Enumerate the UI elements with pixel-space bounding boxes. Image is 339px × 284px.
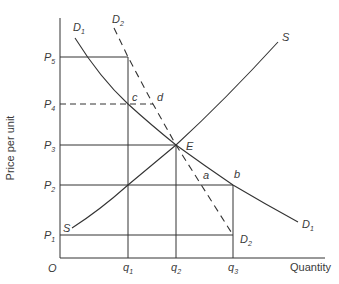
- curve-label-d2-bottom: D2: [240, 233, 252, 247]
- point-label-d: d: [157, 91, 164, 103]
- curve-label-d1-bottom: D1: [302, 218, 314, 232]
- price-label-p5: P5: [44, 51, 55, 65]
- point-label-b: b: [234, 168, 240, 180]
- point-label-c: c: [132, 91, 138, 103]
- curve-label-s-bottom: S: [63, 222, 71, 234]
- demand-curve-d2: [114, 28, 233, 235]
- supply-demand-diagram: Price per unit Quantity O P5 P4 P3 P2 P1…: [0, 0, 339, 284]
- quantity-label-q1: q1: [123, 261, 133, 275]
- price-label-p2: P2: [44, 179, 55, 193]
- curve-label-d2-top: D2: [112, 13, 124, 27]
- x-axis-label: Quantity: [290, 261, 331, 273]
- supply-curve-s: [72, 42, 278, 228]
- point-label-a: a: [203, 169, 209, 181]
- point-label-e: E: [186, 140, 194, 152]
- demand-curve-d1: [75, 38, 298, 222]
- curve-label-d1-top: D1: [73, 21, 85, 35]
- quantity-label-q3: q3: [228, 261, 238, 275]
- quantity-label-q2: q2: [171, 261, 181, 275]
- curve-label-s-top: S: [282, 31, 290, 43]
- price-label-p3: P3: [44, 139, 55, 153]
- price-label-p4: P4: [44, 98, 55, 112]
- y-axis-label: Price per unit: [4, 116, 16, 181]
- origin-label: O: [48, 262, 57, 274]
- price-label-p1: P1: [44, 229, 55, 243]
